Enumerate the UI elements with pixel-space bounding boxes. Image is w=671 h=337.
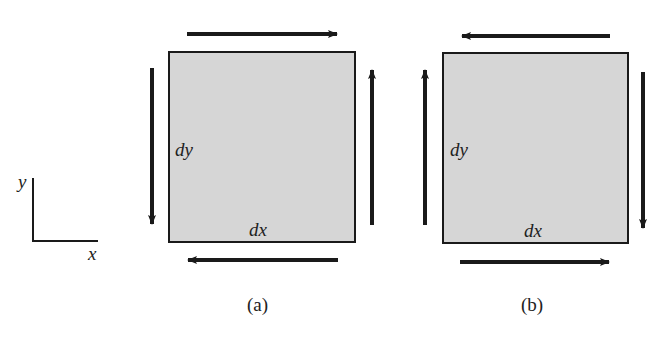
panel-b: dy dx (b) [425, 36, 643, 316]
shear-stress-diagram: y x dy dx (a) dy dx (b) [0, 0, 671, 337]
dy-label: dy [450, 139, 469, 160]
coordinate-axes: y x [16, 171, 98, 264]
element-square [443, 53, 628, 243]
panel-a: dy dx (a) [152, 34, 372, 316]
dx-label: dx [249, 219, 268, 240]
x-axis-label: x [87, 243, 97, 264]
panel-caption: (a) [247, 294, 268, 316]
y-axis-label: y [16, 171, 27, 192]
dy-label: dy [175, 139, 194, 160]
dx-label: dx [524, 220, 543, 241]
element-square [169, 52, 355, 242]
panel-caption: (b) [521, 294, 543, 316]
